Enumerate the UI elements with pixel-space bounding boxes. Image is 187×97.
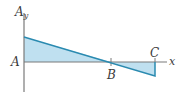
label-b: B <box>106 68 116 82</box>
shear-diagram: Ay A B C x <box>0 0 187 97</box>
label-x: x <box>169 55 176 68</box>
label-c: C <box>150 46 159 60</box>
label-a: A <box>10 55 20 69</box>
label-ay: Ay <box>14 5 29 20</box>
